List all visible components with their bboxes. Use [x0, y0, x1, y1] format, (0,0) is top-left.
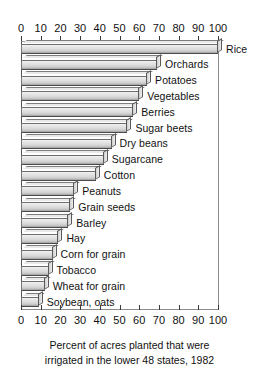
x-tick-label-80: 80	[172, 22, 184, 35]
bar	[21, 266, 49, 276]
x-tick-label-90: 90	[192, 22, 204, 35]
bar-label: Dry beans	[120, 137, 168, 150]
bar-row: Berries	[21, 105, 259, 120]
bar-label: Berries	[141, 106, 175, 119]
chart-caption: Percent of acres planted that were irrig…	[0, 338, 259, 368]
bar-top-face	[23, 40, 224, 43]
bar-label: Corn for grain	[61, 248, 126, 261]
bar-end-cap	[52, 244, 57, 259]
bar	[21, 76, 147, 86]
x-tick-mark-30	[80, 305, 81, 310]
x-tick-label-40: 40	[94, 22, 106, 35]
x-tick-label-60: 60	[133, 314, 145, 327]
bar-label: Barley	[76, 217, 106, 230]
bar-end-cap	[156, 54, 161, 69]
bar-end-cap	[217, 38, 222, 53]
x-tick-mark-70	[159, 305, 160, 310]
x-tick-mark-0	[21, 305, 22, 310]
x-tick-mark-40	[100, 305, 101, 310]
bar-row: Tobacco	[21, 264, 259, 279]
bar-label: Cotton	[104, 169, 135, 182]
bar-end-cap	[67, 212, 72, 227]
bar-end-cap	[38, 291, 43, 306]
x-tick-mark-50	[120, 305, 121, 310]
bar-top-face	[23, 71, 153, 74]
bar	[21, 123, 127, 133]
bar-top-face	[23, 119, 133, 122]
bar	[21, 250, 53, 260]
bar-top-face	[23, 150, 110, 153]
bar-row: Corn for grain	[21, 248, 259, 263]
x-tick-mark-60	[139, 305, 140, 310]
x-tick-label-90: 90	[192, 314, 204, 327]
bar-top-face	[23, 55, 163, 58]
bar	[21, 281, 45, 291]
x-tick-label-20: 20	[54, 22, 66, 35]
bar	[21, 60, 157, 70]
x-tick-label-70: 70	[153, 314, 165, 327]
bar	[21, 186, 74, 196]
bar-label: Sugarcane	[112, 153, 163, 166]
x-tick-mark-10	[41, 305, 42, 310]
bars-area: RiceOrchardsPotatoesVegetablesBerriesSug…	[21, 41, 259, 310]
bar	[21, 91, 139, 101]
x-tick-label-10: 10	[34, 314, 46, 327]
caption-line-1: Percent of acres planted that were	[0, 338, 259, 353]
x-axis-bottom-tickmarks	[0, 305, 259, 310]
bar	[21, 171, 96, 181]
bar	[21, 202, 70, 212]
x-tick-label-40: 40	[94, 314, 106, 327]
bar-label: Wheat for grain	[53, 280, 126, 293]
bar-end-cap	[103, 149, 108, 164]
x-tick-mark-100	[218, 305, 219, 310]
x-tick-label-10: 10	[34, 22, 46, 35]
x-tick-label-0: 0	[18, 314, 24, 327]
caption-line-2: irrigated in the lower 48 states, 1982	[0, 353, 259, 368]
bar-end-cap	[138, 86, 143, 101]
bar-end-cap	[73, 181, 78, 196]
bar-top-face	[23, 103, 139, 106]
bar-end-cap	[57, 228, 62, 243]
x-tick-label-20: 20	[54, 314, 66, 327]
bar-label: Grain seeds	[78, 201, 135, 214]
bar	[21, 155, 104, 165]
x-axis-bottom-labels: 0102030405060708090100	[0, 314, 259, 328]
x-tick-label-0: 0	[18, 22, 24, 35]
x-tick-label-30: 30	[74, 22, 86, 35]
bar	[21, 44, 218, 54]
bar	[21, 139, 112, 149]
bar-top-face	[23, 134, 117, 137]
x-tick-label-70: 70	[153, 22, 165, 35]
bar	[21, 107, 133, 117]
bar-label: Vegetables	[147, 90, 199, 103]
bar-label: Rice	[226, 43, 247, 56]
x-tick-label-80: 80	[172, 314, 184, 327]
bar	[21, 218, 68, 228]
x-tick-mark-80	[179, 305, 180, 310]
x-tick-mark-90	[198, 305, 199, 310]
x-tick-label-50: 50	[113, 314, 125, 327]
bar-top-face	[23, 87, 145, 90]
bar-end-cap	[44, 275, 49, 290]
bar-row: Wheat for grain	[21, 279, 259, 294]
bar-label: Peanuts	[82, 185, 121, 198]
bar-end-cap	[48, 260, 53, 275]
bar-label: Orchards	[165, 58, 209, 71]
bar-top-face	[23, 182, 80, 185]
bar-label: Tobacco	[57, 264, 96, 277]
bar-label: Hay	[66, 232, 85, 245]
bar-end-cap	[69, 196, 74, 211]
x-tick-label-30: 30	[74, 314, 86, 327]
x-tick-mark-20	[60, 305, 61, 310]
bar-end-cap	[95, 165, 100, 180]
bar-end-cap	[111, 133, 116, 148]
bar-row: Grain seeds	[21, 200, 259, 215]
bar-chart: 0102030405060708090100 RiceOrchardsPotat…	[0, 0, 259, 381]
bar	[21, 234, 58, 244]
bar-end-cap	[126, 117, 131, 132]
x-tick-label-50: 50	[113, 22, 125, 35]
x-tick-label-60: 60	[133, 22, 145, 35]
bar-end-cap	[146, 70, 151, 85]
bar-label: Sugar beets	[135, 122, 192, 135]
bar-top-face	[23, 166, 102, 169]
